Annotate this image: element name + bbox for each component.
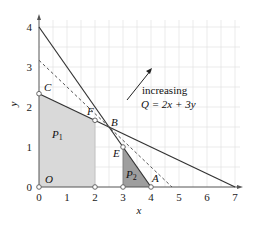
x-axis-arrow-icon (237, 185, 243, 189)
point-label-e: E (112, 147, 120, 159)
svg-text:0: 0 (27, 181, 33, 193)
svg-text:4: 4 (27, 21, 33, 33)
point-label-f: F (86, 105, 94, 117)
svg-text:1: 1 (64, 191, 70, 203)
svg-text:0: 0 (36, 191, 42, 203)
point-label-b: B (111, 116, 118, 128)
annotation-increasing: increasing (142, 84, 188, 96)
svg-text:5: 5 (176, 191, 182, 203)
svg-text:6: 6 (204, 191, 210, 203)
svg-text:7: 7 (232, 191, 238, 203)
point-label-o: O (45, 173, 53, 185)
svg-text:4: 4 (148, 191, 154, 203)
linear-programming-diagram: 0 1 2 3 4 5 6 7 0 1 2 3 4 x y O C F B E … (0, 0, 254, 227)
svg-text:1: 1 (27, 141, 33, 153)
y-tick-labels: 0 1 2 3 4 (27, 21, 33, 193)
x-axis-label: x (136, 204, 142, 216)
svg-text:3: 3 (120, 191, 126, 203)
point-label-c: C (44, 81, 52, 93)
x-tick-labels: 0 1 2 3 4 5 6 7 (36, 191, 238, 203)
y-axis-label: y (7, 101, 19, 107)
svg-text:2: 2 (27, 101, 33, 113)
svg-text:2: 2 (92, 191, 98, 203)
svg-text:3: 3 (27, 61, 33, 73)
annotation-objective: Q = 2x + 3y (141, 98, 196, 110)
point-label-a: A (151, 172, 159, 184)
y-axis-arrow-icon (37, 14, 41, 20)
